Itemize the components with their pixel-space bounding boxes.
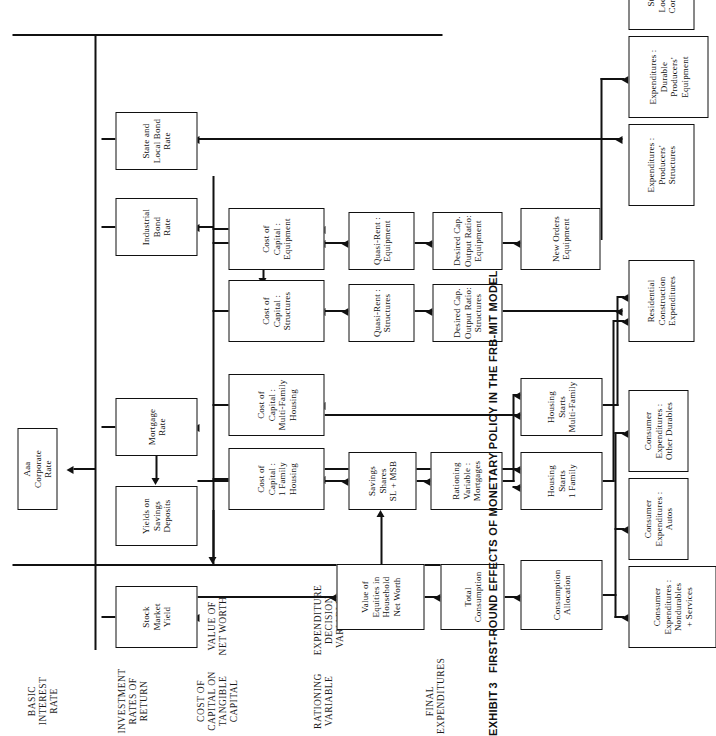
- band-label-rationing-variable: RATIONING VARIABLE: [312, 668, 334, 734]
- node-cost-of-capital-multi-family-housing[interactable]: Cost of Capital : Multi-Family Housing: [228, 374, 324, 436]
- bus-consumption-fanout: [614, 432, 616, 618]
- line-bus-to-stock-market-yield: [101, 616, 115, 618]
- node-cost-of-capital-equipment[interactable]: Cost of Capital : Equipment: [228, 208, 324, 270]
- node-aaa-corporate-rate[interactable]: Aaa Corporate Rate: [17, 428, 57, 510]
- arrow-quasirent-structures-to-desired: [425, 308, 432, 316]
- line-bus-to-mortgage-rate: [101, 426, 115, 428]
- line-new-orders-to-exp-equipment: [600, 78, 624, 80]
- arrow-fan-autos: [621, 526, 628, 534]
- trunk-right-rail: [12, 34, 442, 36]
- band-label-value-of-net-worth: VALUE OF NET WORTH: [206, 592, 228, 660]
- line-bus-cc-equipment: [212, 242, 230, 244]
- node-consumer-exp-autos[interactable]: Consumer Expenditures : Autos: [628, 478, 688, 560]
- arrow-rationing-to-hsm: [513, 392, 520, 400]
- line-alloc-riser: [602, 594, 616, 596]
- node-consumer-exp-nondurables[interactable]: Consumer Expenditures : Nondurables + Se…: [628, 566, 716, 648]
- node-cost-of-capital-1-family-housing[interactable]: Cost of Capital : 1 Family Housing: [228, 448, 324, 510]
- band-label-final-expenditures: FINAL EXPENDITURES: [424, 668, 446, 734]
- line-mortgage-to-yields: [155, 454, 157, 478]
- arrow-desired-structures-to-exp: [615, 308, 622, 316]
- line-smy-to-equities: [197, 596, 336, 598]
- arrow-quasirent-equipment-to-desired: [425, 240, 432, 248]
- node-value-of-equities[interactable]: Value of Equities in Household Net Worth: [336, 564, 424, 630]
- arrow-savings-to-rationing: [423, 478, 430, 486]
- arrow-ccequipment-to-quasirent: [341, 240, 348, 248]
- band-label-basic-interest-rate: BASIC INTEREST RATE: [26, 668, 59, 734]
- arrow-aaa-up: [66, 466, 73, 474]
- node-housing-starts-multi-family[interactable]: Housing Starts Multi-Family: [520, 378, 602, 436]
- line-desired-structures-to-exp: [502, 310, 622, 312]
- line-aaa-up: [73, 468, 95, 470]
- arrow-ccmulti-to-hsm: [513, 412, 520, 420]
- node-state-local-bond-rate[interactable]: State and Local Bond Rate: [115, 112, 197, 170]
- node-state-local-govt-construction[interactable]: State and Local Gov't. Construction: [628, 0, 694, 30]
- line-bus-cc-structures: [212, 310, 230, 312]
- line-cc-return-left: [212, 510, 214, 558]
- arrow-equities-to-total-consumption: [433, 594, 440, 602]
- arrow-hsm-to-resi: [621, 294, 628, 302]
- line-bus-to-state-local-bond-rate: [101, 138, 115, 140]
- arrow-cc-return-left: [208, 557, 216, 564]
- node-quasi-rent-structures[interactable]: Quasi-Rent : Structures: [348, 284, 414, 342]
- arrow-hs1-to-resi: [621, 318, 628, 326]
- node-yields-on-savings-deposits[interactable]: Yields on Savings Deposits: [115, 486, 197, 546]
- line-state-local-bond-to-construction: [197, 138, 622, 140]
- node-exp-producers-structures[interactable]: Expenditures : Producers' Structures: [628, 124, 694, 206]
- arrow-rationing-to-hs1: [513, 484, 520, 492]
- bus-basic-rate: [94, 36, 96, 650]
- arrow-equities-to-savings: [376, 510, 384, 517]
- line-equities-to-savings: [380, 516, 382, 564]
- arrow-desired-equipment-to-new-orders: [513, 240, 520, 248]
- node-industrial-bond-rate[interactable]: Industrial Bond Rate: [115, 198, 197, 256]
- node-consumption-allocation[interactable]: Consumption Allocation: [520, 560, 602, 630]
- arrow-new-orders-to-exp-equipment: [621, 76, 628, 84]
- arrow-yields-to-savings-shares: [341, 478, 348, 486]
- arrow-fan-nondurables: [621, 614, 628, 622]
- line-bus-cc-equipment-2: [212, 228, 230, 230]
- arrow-total-consumption-to-allocation: [513, 594, 520, 602]
- line-bus-cc-multifam: [212, 404, 230, 406]
- node-residential-construction-exp[interactable]: Residential Construction Expenditures: [628, 260, 694, 342]
- bus-cost-of-capital: [212, 176, 214, 566]
- node-mortgage-rate[interactable]: Mortgage Rate: [115, 398, 197, 456]
- band-label-cost-of-capital: COST OF CAPITAL ON TANGIBLE CAPITAL: [195, 668, 239, 734]
- caption-title: FIRST-ROUND EFFECTS OF MONETARY POLICY I…: [487, 270, 499, 673]
- arrow-smy-to-equities: [329, 594, 336, 602]
- node-quasi-rent-equipment[interactable]: Quasi-Rent : Equipment: [348, 212, 414, 270]
- line-hs1-bridge: [612, 322, 614, 482]
- exhibit-caption: EXHIBIT 3 FIRST-ROUND EFFECTS OF MONETAR…: [479, 0, 507, 736]
- arrow-mortgage-to-yields: [151, 478, 159, 485]
- node-housing-starts-1-family[interactable]: Housing Starts 1 Family: [520, 452, 602, 510]
- node-savings-shares-sl-msb[interactable]: Savings Shares SL + MSB: [348, 452, 416, 510]
- arrow-ccstructures-to-quasirent: [341, 308, 348, 316]
- caption-exhibit-number: 3: [487, 682, 499, 688]
- node-exp-durable-producers-equipment[interactable]: Expenditures : Durable Producers' Equipm…: [628, 36, 708, 118]
- node-consumer-exp-other-durables[interactable]: Consumer Expenditures : Other Durables: [628, 390, 688, 472]
- line-bus-to-industrial-bond-rate: [101, 226, 115, 228]
- band-label-investment-rates-of-return: INVESTMENT RATES OF RETURN: [116, 668, 149, 734]
- arrow-state-local-bond-to-construction: [615, 136, 622, 144]
- node-stock-market-yield[interactable]: Stock Market Yield: [115, 586, 197, 648]
- caption-exhibit-label: EXHIBIT: [487, 691, 499, 736]
- arrow-fan-other-durables: [621, 430, 628, 438]
- node-cost-of-capital-structures[interactable]: Cost of Capital : Structures: [228, 280, 324, 342]
- arrow-cc1fam-to-hs1: [513, 466, 520, 474]
- node-new-orders-equipment[interactable]: New Orders Equipment: [520, 208, 600, 270]
